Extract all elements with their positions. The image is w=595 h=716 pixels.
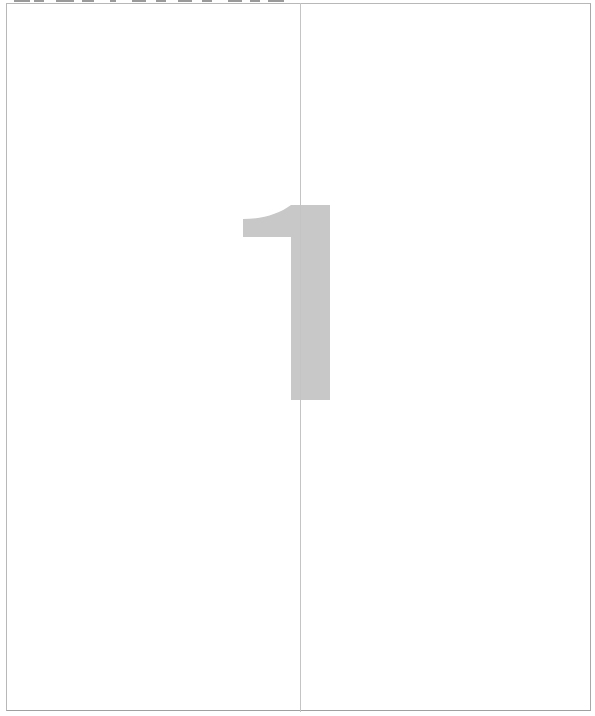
page-frame	[6, 3, 591, 711]
center-divider	[300, 3, 301, 712]
